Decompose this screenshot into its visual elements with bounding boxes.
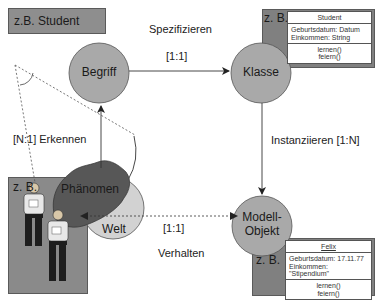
modell-objekt-line2: Objekt	[237, 225, 287, 239]
uml-object-name: Felix	[286, 241, 371, 253]
verhalten-cardinality: [1:1]	[163, 223, 184, 234]
uml-object-felix: Felix Geburtsdatum: 17.11.77 Einkommen: …	[285, 240, 372, 300]
modell-objekt-label: Modell- Objekt	[237, 211, 287, 239]
uml-class-name: Student	[288, 12, 371, 24]
uml-class-student: Student Geburtsdatum: Datum Einkommen: S…	[287, 11, 372, 64]
class-zb-label: z. B.	[264, 11, 288, 25]
uml-object-op-1: lernen()	[289, 282, 368, 289]
uml-object-op-2: feiern()	[289, 290, 368, 297]
begriff-label: Begriff	[74, 66, 124, 80]
uml-object-attr-1: Geburtsdatum: 17.11.77	[289, 255, 368, 262]
uml-object-attributes: Geburtsdatum: 17.11.77 Einkommen: "Stipe…	[286, 253, 371, 280]
object-zb-label: z. B.	[256, 253, 280, 267]
uml-class-op-2: feiern()	[291, 53, 368, 60]
verhalten-label: Verhalten	[158, 248, 204, 259]
uml-object-operations: lernen() feiern()	[286, 280, 371, 299]
phaenomen-label: Phänomen	[60, 183, 120, 197]
modell-objekt-line1: Modell-	[237, 211, 287, 225]
spezifizieren-cardinality: [1:1]	[166, 51, 187, 62]
erkennen-label: [N:1] Erkennen	[13, 134, 86, 145]
angle-arc-icon	[20, 73, 33, 85]
instanziieren-label: Instanziieren [1:N]	[271, 135, 360, 146]
uml-object-attr-2: Einkommen: "Stipendium"	[289, 263, 368, 278]
uml-class-attr-1: Geburtsdatum: Datum	[291, 26, 368, 33]
spezifizieren-label: Spezifizieren	[149, 24, 212, 35]
phenomenon-zb-label: z. B.	[13, 181, 37, 193]
uml-class-op-1: lernen()	[291, 46, 368, 53]
uml-class-attributes: Geburtsdatum: Datum Einkommen: String	[288, 24, 371, 44]
uml-class-attr-2: Einkommen: String	[291, 34, 368, 41]
klasse-label: Klasse	[236, 66, 286, 80]
uml-class-operations: lernen() feiern()	[288, 44, 371, 63]
welt-label: Welt	[94, 223, 134, 237]
